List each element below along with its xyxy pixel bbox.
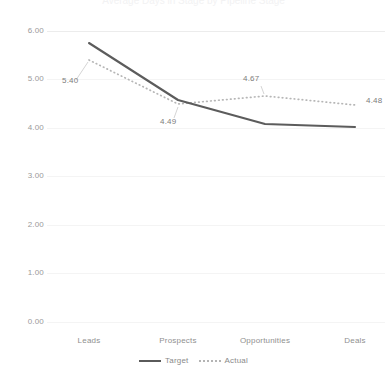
x-tick-label-opportunities: Opportunities [228,336,302,345]
legend-label-target: Target [165,356,188,365]
x-tick-label-prospects: Prospects [148,336,208,345]
legend-swatch-solid-icon [139,357,161,365]
x-tick-label-deals: Deals [325,336,385,345]
label-leader-opportunities [261,86,264,94]
legend-item-target[interactable]: Target [139,356,188,365]
line-chart: 6.00 5.00 4.00 3.00 2.00 1.00 0.00 5.40 … [0,0,387,383]
legend-label-actual: Actual [225,356,248,365]
series-line-actual [89,60,355,105]
data-label-actual-leads: 5.40 [62,76,78,85]
footer-artifact-strip [0,372,387,380]
data-label-actual-prospects: 4.49 [160,117,176,126]
chart-legend: Target Actual [0,356,387,365]
data-label-actual-deals: 4.48 [366,96,382,105]
series-line-target [89,43,355,127]
legend-swatch-dotted-icon [199,357,221,365]
data-label-actual-opportunities: 4.67 [243,74,259,83]
legend-item-actual[interactable]: Actual [199,356,248,365]
x-tick-label-leads: Leads [59,336,119,345]
plot-area [0,0,387,383]
